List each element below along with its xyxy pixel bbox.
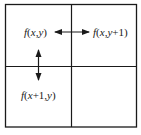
label-f-x-plus-1-y: f(x+1,y) — [21, 90, 56, 101]
label-f-x-y-plus-1: f(x,y+1) — [93, 27, 128, 38]
label-f-x-y: f(x,y) — [24, 27, 47, 38]
grid-diagram — [0, 0, 141, 135]
